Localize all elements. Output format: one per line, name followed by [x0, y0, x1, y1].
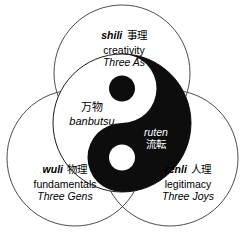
label-shili-term: shili [101, 29, 122, 41]
label-ruten-cjk: 流転 [128, 138, 184, 150]
label-shili-triad: Three As [78, 56, 170, 68]
label-shili-term-row: shili 事理 [78, 25, 170, 44]
label-shili-cjk: 事理 [127, 29, 147, 41]
label-ruten: ruten 流転 [128, 126, 184, 151]
label-renli: renli 人理 legitimacy Three Joys [137, 159, 239, 203]
label-banbutsu-romaji: banbutsu [56, 115, 128, 128]
label-banbutsu-cjk: 万物 [56, 102, 128, 115]
label-banbutsu: 万物 banbutsu [56, 102, 128, 128]
label-wuli-term-row: wuli 物理 [13, 159, 117, 178]
label-wuli-triad: Three Gens [13, 190, 117, 202]
label-wuli-term: wuli [43, 163, 63, 175]
label-renli-cjk: 人理 [191, 163, 211, 175]
venn-diagram: shili 事理 creativity Three As wuli 物理 fun… [0, 0, 244, 244]
label-renli-triad: Three Joys [137, 190, 239, 202]
label-renli-english: legitimacy [137, 178, 239, 190]
label-shili: shili 事理 creativity Three As [78, 25, 170, 69]
label-wuli: wuli 物理 fundamentals Three Gens [13, 159, 117, 203]
taijitu-yin-dot [109, 76, 135, 102]
label-renli-term-row: renli 人理 [137, 159, 239, 178]
label-wuli-english: fundamentals [13, 178, 117, 190]
label-ruten-romaji: ruten [128, 126, 184, 138]
label-shili-english: creativity [78, 44, 170, 56]
label-renli-term: renli [165, 163, 187, 175]
label-wuli-cjk: 物理 [67, 163, 87, 175]
